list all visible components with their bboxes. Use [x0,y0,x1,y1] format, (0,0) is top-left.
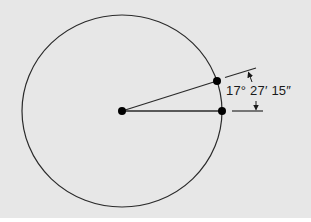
circle-point-upper [213,77,221,85]
diagram-canvas: 17° 27′ 15″ [0,0,311,222]
circle-point-horizontal [218,107,226,115]
circle-angle-diagram [0,0,311,222]
dimension-arrow-up [249,73,253,83]
center-point [118,107,126,115]
angle-measurement-label: 17° 27′ 15″ [226,84,291,98]
radius-line-angled [122,81,217,111]
extension-line-upper [225,68,256,78]
